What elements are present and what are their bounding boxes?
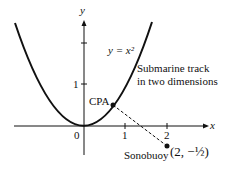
- cpa-point: [111, 103, 116, 108]
- x-tick-label-1: 1: [122, 130, 128, 141]
- description-line-2: in two dimensions: [137, 76, 218, 87]
- sonobuoy-label: Sonobuoy: [124, 150, 169, 161]
- diagram: y x 0 1 2 1 y = x² Submarine track in tw…: [0, 0, 226, 172]
- x-axis-arrow-icon: [203, 124, 209, 129]
- y-tick-label-1: 1: [73, 79, 79, 90]
- curve-label: y = x²: [108, 45, 134, 56]
- x-tick-label-0: 0: [74, 130, 80, 141]
- sonobuoy-point: [165, 144, 170, 149]
- cpa-label: CPA: [89, 96, 109, 107]
- y-axis-label: y: [80, 5, 85, 16]
- sonobuoy-coords: (2, −½): [170, 145, 209, 158]
- y-axis-arrow-icon: [82, 20, 87, 26]
- description-line-1: Submarine track: [137, 63, 209, 74]
- x-axis-label: x: [210, 120, 215, 131]
- x-tick-label-2: 2: [164, 130, 170, 141]
